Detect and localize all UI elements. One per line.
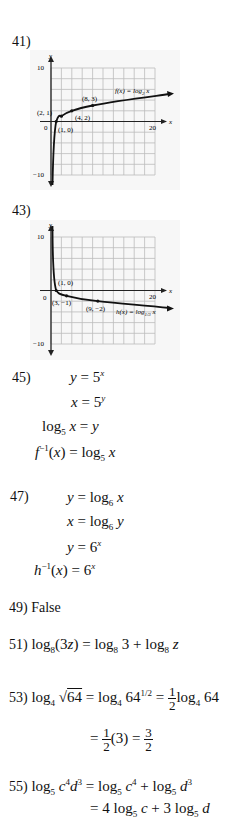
problem-53-line-2: = 12(3) = 32	[90, 726, 153, 753]
problem-51: 51) log8(3z) = log8 3 + log8 z	[9, 636, 179, 655]
svg-text:20: 20	[149, 124, 157, 132]
p47-line-3: y = 6x	[67, 538, 101, 556]
svg-text:(9, −2): (9, −2)	[86, 305, 106, 313]
p47-line-2: x = log6 y	[67, 513, 124, 532]
problem-55-line-2: = 4 log5 c + 3 log5 d	[90, 800, 210, 819]
svg-text:(1, 0): (1, 0)	[58, 126, 74, 134]
svg-text:h(x) = log1/3 x: h(x) = log1/3 x	[116, 308, 157, 317]
problem-45-label: 45)	[12, 370, 31, 386]
problem-43-label: 43)	[12, 203, 31, 219]
p45-line-2: x = 5y	[71, 393, 105, 411]
svg-text:(3, −1): (3, −1)	[52, 299, 72, 307]
p45-line-3: log5 x = y	[42, 418, 99, 437]
svg-text:(4, 2): (4, 2)	[75, 114, 91, 122]
graph-log2: x y 10 −10 0 20 (2, 1) (1, 0) (4, 2) (8,…	[30, 50, 180, 190]
svg-text:10: 10	[37, 233, 45, 241]
problem-49: 49) False	[9, 600, 61, 616]
answer-49: False	[31, 600, 61, 615]
p45-line-1: y = 5x	[70, 368, 104, 386]
graph-log13: x y 10 −10 0 20 (1, 0) (3, −1) (9, −2) h…	[30, 220, 180, 360]
problem-55-line-1: 55) log5 c4d3 = log5 c4 + log5 d3	[9, 777, 192, 797]
p47-line-1: y = log6 x	[67, 489, 124, 508]
p47-line-4: h−1(x) = 6x	[34, 561, 95, 579]
problem-47-label: 47)	[10, 489, 29, 505]
p45-line-4: f−1(x) = log5 x	[35, 443, 115, 463]
svg-text:−10: −10	[33, 340, 44, 348]
problem-41-label: 41)	[12, 34, 31, 50]
svg-text:(8, 3): (8, 3)	[82, 95, 98, 103]
svg-text:−10: −10	[33, 171, 44, 179]
svg-text:(1, 0): (1, 0)	[58, 279, 74, 287]
svg-text:(2, 1): (2, 1)	[37, 109, 53, 117]
svg-text:f(x) = log2 x: f(x) = log2 x	[115, 87, 150, 96]
svg-text:10: 10	[37, 64, 45, 72]
problem-53-line-1: 53) log4 √64 = log4 641/2 = 12log4 64	[9, 685, 219, 712]
svg-text:20: 20	[149, 293, 157, 301]
svg-text:0: 0	[44, 124, 48, 132]
svg-text:0: 0	[43, 294, 47, 302]
